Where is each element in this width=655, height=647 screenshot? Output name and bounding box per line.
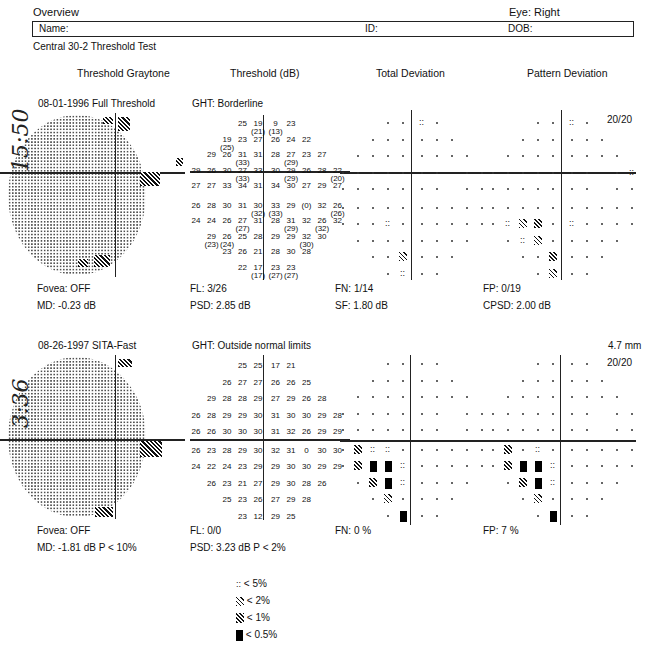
threshold-value: 30 — [251, 428, 265, 436]
normal-dot-icon — [522, 256, 524, 258]
normal-dot-icon — [421, 155, 423, 157]
normal-dot-icon — [421, 172, 423, 174]
normal-dot-icon — [421, 498, 423, 500]
normal-dot-icon — [372, 223, 374, 225]
legend-item: :: < 5% — [236, 578, 267, 589]
normal-dot-icon — [421, 413, 423, 415]
normal-dot-icon — [571, 155, 573, 157]
normal-dot-icon — [466, 396, 468, 398]
legend-item: < 1% — [236, 612, 270, 623]
threshold-value: 26 — [269, 379, 283, 387]
normal-dot-icon — [522, 139, 524, 141]
normal-dot-icon — [537, 155, 539, 157]
normal-dot-icon — [522, 396, 524, 398]
threshold-value: 21 — [284, 362, 298, 370]
normal-dot-icon — [586, 155, 588, 157]
normal-dot-icon — [537, 256, 539, 258]
dots-symbol-icon: :: — [419, 118, 424, 127]
normal-dot-icon — [372, 396, 374, 398]
threshold-value: 28 — [269, 217, 283, 225]
normal-dot-icon — [436, 256, 438, 258]
normal-dot-icon — [616, 465, 618, 467]
normal-dot-icon — [357, 172, 359, 174]
solid-square-icon — [520, 461, 527, 472]
threshold-value: 26 — [284, 379, 298, 387]
normal-dot-icon — [466, 240, 468, 242]
normal-dot-icon — [507, 413, 509, 415]
threshold-value: 23 — [236, 513, 250, 521]
normal-dot-icon — [357, 223, 359, 225]
normal-dot-icon — [552, 413, 554, 415]
normal-dot-icon — [571, 273, 573, 275]
normal-dot-icon — [402, 380, 404, 382]
threshold-value: 29 — [269, 463, 283, 471]
sparse-hatch-icon — [236, 597, 244, 606]
threshold-value: 29 — [251, 463, 265, 471]
normal-dot-icon — [571, 482, 573, 484]
threshold-value: 26 — [189, 428, 203, 436]
threshold-value: 26 — [205, 167, 219, 175]
normal-dot-icon — [537, 188, 539, 190]
normal-dot-icon — [631, 207, 633, 209]
threshold-value: 27 — [205, 182, 219, 190]
normal-dot-icon — [402, 396, 404, 398]
threshold-value: 27 — [251, 480, 265, 488]
normal-dot-icon — [586, 207, 588, 209]
threshold-value: (0) — [300, 202, 314, 210]
normal-dot-icon — [522, 188, 524, 190]
threshold-value: 29 — [236, 447, 250, 455]
normal-dot-icon — [571, 449, 573, 451]
normal-dot-icon — [436, 172, 438, 174]
normal-dot-icon — [451, 498, 453, 500]
mean-deviation: MD: -1.81 dB P < 10% — [37, 542, 137, 553]
normal-dot-icon — [586, 172, 588, 174]
threshold-value: 28 — [251, 233, 265, 241]
threshold-value: 27 — [251, 136, 265, 144]
normal-dot-icon — [586, 188, 588, 190]
dots-symbol-icon: :: — [535, 445, 540, 454]
normal-dot-icon — [507, 396, 509, 398]
threshold-value: 26 — [189, 447, 203, 455]
normal-dot-icon — [466, 482, 468, 484]
normal-dot-icon — [451, 396, 453, 398]
normal-dot-icon — [342, 172, 344, 174]
threshold-value: 0 — [300, 447, 314, 455]
threshold-value: 24 — [284, 136, 298, 144]
normal-dot-icon — [387, 396, 389, 398]
normal-dot-icon — [552, 449, 554, 451]
normal-dot-icon — [601, 155, 603, 157]
normal-dot-icon — [342, 223, 344, 225]
threshold-value: 29 — [269, 233, 283, 241]
threshold-value: 27 — [269, 496, 283, 504]
dots-symbol-icon: :: — [550, 478, 555, 487]
normal-dot-icon — [357, 429, 359, 431]
dots-symbol-icon: :: — [400, 269, 405, 278]
threshold-value: 31 — [236, 202, 250, 210]
fovea: Fovea: OFF — [37, 525, 90, 536]
threshold-value: 26 — [300, 395, 314, 403]
normal-dot-icon — [571, 139, 573, 141]
normal-dot-icon — [372, 498, 374, 500]
normal-dot-icon — [421, 273, 423, 275]
normal-dot-icon — [631, 223, 633, 225]
normal-dot-icon — [342, 465, 344, 467]
col-head-pattern-dev: Pattern Deviation — [527, 67, 608, 79]
report-title: Overview — [33, 6, 79, 18]
threshold-value: 30 — [284, 480, 298, 488]
normal-dot-icon — [436, 429, 438, 431]
mean-deviation: MD: -0.23 dB — [37, 300, 96, 311]
threshold-value: 29 — [315, 182, 329, 190]
normal-dot-icon — [387, 139, 389, 141]
normal-dot-icon — [552, 223, 554, 225]
normal-dot-icon — [586, 449, 588, 451]
sparse-hatch-icon — [399, 252, 407, 261]
normal-dot-icon — [402, 240, 404, 242]
normal-dot-icon — [466, 207, 468, 209]
dense-hatch-icon — [369, 478, 377, 487]
normal-dot-icon — [481, 172, 483, 174]
normal-dot-icon — [537, 396, 539, 398]
normal-dot-icon — [571, 515, 573, 517]
normal-dot-icon — [466, 172, 468, 174]
solid-square-icon — [385, 478, 392, 489]
normal-dot-icon — [586, 223, 588, 225]
